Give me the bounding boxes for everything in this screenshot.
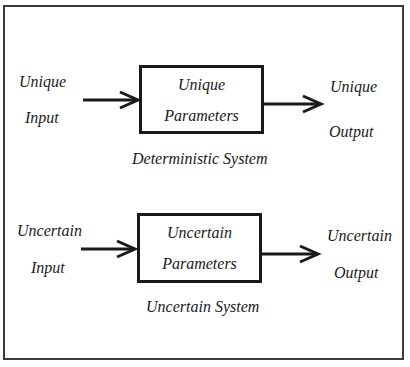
uncertain-output-label-2: Output (334, 265, 378, 281)
deterministic-box-label-1: Unique (142, 77, 261, 93)
uncertain-output-label-1: Uncertain (327, 228, 392, 244)
uncertain-box-label-1: Uncertain (140, 225, 259, 241)
uncertain-input-arrow-icon (81, 241, 135, 257)
uncertain-input-label-1: Uncertain (17, 223, 82, 239)
deterministic-output-label-1: Unique (330, 79, 377, 95)
deterministic-input-label-1: Unique (19, 74, 66, 90)
deterministic-input-arrow-icon (83, 92, 138, 108)
uncertain-box-label-2: Parameters (140, 256, 259, 272)
deterministic-box-label-2: Parameters (142, 108, 261, 124)
deterministic-input-label-2: Input (25, 110, 59, 126)
uncertain-output-arrow-icon (261, 246, 318, 262)
uncertain-system-caption: Uncertain System (146, 299, 259, 315)
uncertain-input-label-2: Input (31, 260, 65, 276)
deterministic-output-label-2: Output (329, 124, 373, 140)
uncertain-system-box: Uncertain Parameters (137, 213, 262, 283)
deterministic-output-arrow-icon (263, 96, 321, 112)
deterministic-system-caption: Deterministic System (132, 151, 268, 167)
deterministic-system-box: Unique Parameters (139, 65, 264, 134)
